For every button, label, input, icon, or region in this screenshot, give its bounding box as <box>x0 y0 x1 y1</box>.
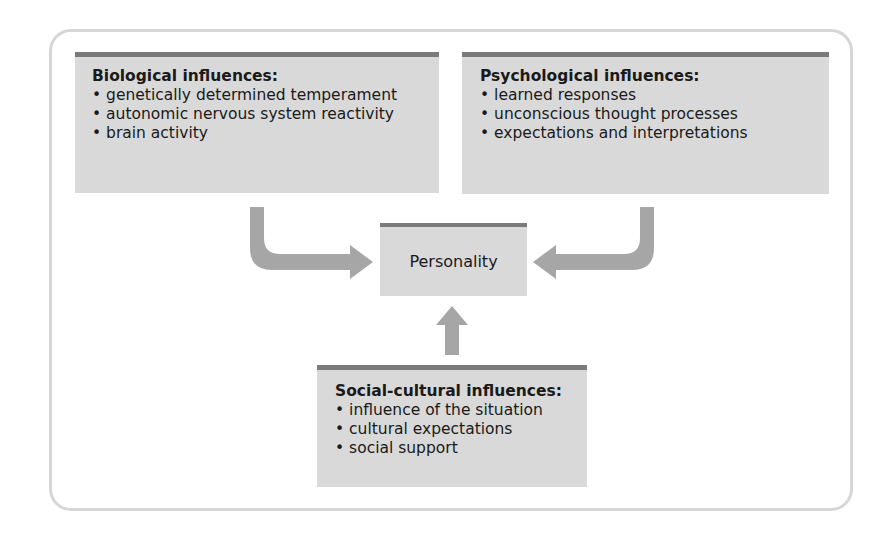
social-cultural-influences-box: Social-cultural influences: influence of… <box>317 365 587 487</box>
psychological-list: learned responses unconscious thought pr… <box>480 86 829 143</box>
psychological-influences-box: Psychological influences: learned respon… <box>462 52 829 194</box>
list-item: cultural expectations <box>335 420 587 439</box>
list-item: social support <box>335 439 587 458</box>
biological-list: genetically determined temperament auton… <box>92 86 439 143</box>
biological-influences-box: Biological influences: genetically deter… <box>75 52 439 193</box>
arrow-biological-to-personality <box>250 207 373 279</box>
personality-label: Personality <box>409 252 497 271</box>
list-item: brain activity <box>92 124 439 143</box>
biological-title: Biological influences: <box>92 67 439 86</box>
personality-box: Personality <box>380 223 527 296</box>
social-cultural-list: influence of the situation cultural expe… <box>335 401 587 458</box>
psychological-title: Psychological influences: <box>480 67 829 86</box>
arrow-psychological-to-personality <box>533 207 654 279</box>
arrow-social-to-personality <box>436 306 468 355</box>
social-cultural-title: Social-cultural influences: <box>335 382 587 401</box>
list-item: genetically determined temperament <box>92 86 439 105</box>
list-item: unconscious thought processes <box>480 105 829 124</box>
list-item: autonomic nervous system reactivity <box>92 105 439 124</box>
list-item: influence of the situation <box>335 401 587 420</box>
list-item: learned responses <box>480 86 829 105</box>
list-item: expectations and interpretations <box>480 124 829 143</box>
